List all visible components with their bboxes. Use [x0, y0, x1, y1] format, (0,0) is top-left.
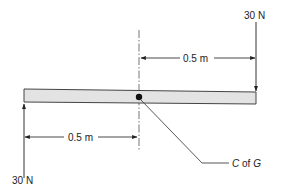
- centre-of-gravity-dot: [136, 94, 142, 100]
- cog-label-g: G: [253, 158, 261, 169]
- dimension-label-bottom: 0.5 m: [68, 132, 93, 143]
- force-label-top-right: 30 N: [244, 10, 265, 21]
- force-label-bottom-left: 30 N: [12, 175, 33, 186]
- cog-label: C of G: [232, 158, 261, 169]
- cog-leader-line: [140, 99, 229, 163]
- beam-diagram: 30 N 30 N 0.5 m 0.5 m C of G: [0, 0, 285, 194]
- dimension-label-top: 0.5 m: [183, 53, 208, 64]
- cog-label-of: of: [239, 158, 253, 169]
